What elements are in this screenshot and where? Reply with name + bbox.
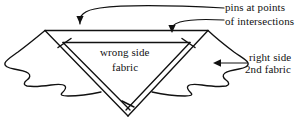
label-2nd-fabric: 2nd fabric xyxy=(245,64,291,75)
arrowhead-right-side xyxy=(213,59,221,67)
label-fabric: fabric xyxy=(112,62,138,73)
pins-leader-arrows xyxy=(80,6,224,31)
label-pins-at-points: pins at points xyxy=(225,2,285,13)
left-fabric-edge xyxy=(5,31,101,97)
pins-leader-curve-left xyxy=(80,6,224,24)
arrowhead-right-intersection xyxy=(168,25,175,33)
v-outer-right-arm xyxy=(128,31,208,117)
pins-leader-curve-right xyxy=(172,19,224,31)
label-of-intersections: of intersections xyxy=(225,16,294,27)
arrowhead-left-intersection xyxy=(76,16,83,24)
label-right-side: right side xyxy=(249,52,291,63)
v-outer-left-arm xyxy=(45,31,128,117)
label-wrong-side: wrong side xyxy=(100,47,150,58)
right-side-arrowhead-group xyxy=(213,59,221,67)
figure-canvas: pins at points of intersections right si… xyxy=(0,0,301,120)
